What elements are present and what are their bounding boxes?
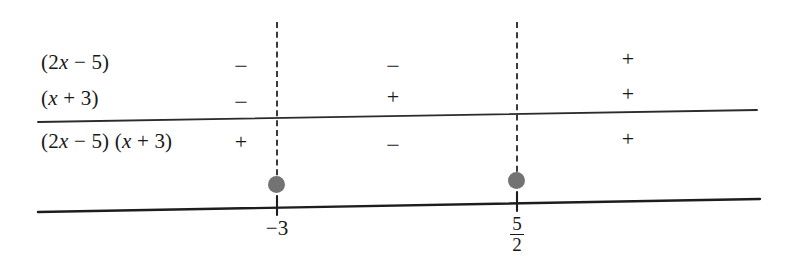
row-label-product: (2x − 5) (x + 3): [41, 131, 172, 152]
row-label-text-mid: − 5) (: [68, 129, 121, 153]
row-label-factor-1: (2x − 5): [41, 52, 109, 73]
number-line: [38, 199, 760, 212]
critical-point-dot-minus-3: [268, 176, 285, 193]
critical-point-dot-five-halves: [508, 172, 525, 189]
fraction-five-halves: 5 2: [510, 214, 524, 255]
sign-chart-figure: (2x − 5) − − + (x + 3) − + + (2x − 5) (x…: [0, 0, 794, 261]
row-label-factor-2: (x + 3): [41, 88, 99, 109]
sign-product-right: +: [615, 128, 641, 150]
axis-label-five-halves: 5 2: [496, 214, 538, 255]
fraction-denominator: 2: [510, 234, 524, 255]
sign-product-left: +: [228, 131, 254, 153]
sign-factor-2-right: +: [615, 83, 641, 105]
fraction-numerator: 5: [510, 214, 524, 234]
row-label-text-tail: + 3): [58, 86, 99, 110]
sign-factor-2-middle: +: [380, 86, 406, 108]
row-label-text: (2: [41, 129, 59, 153]
sign-product-middle: −: [380, 133, 406, 157]
sign-factor-1-right: +: [615, 48, 641, 70]
divider-line-five-halves: [516, 22, 518, 182]
axis-label-minus-3: −3: [256, 218, 298, 239]
row-label-variable: x: [48, 86, 58, 110]
row-label-variable: x: [59, 129, 69, 153]
divider-line-minus-3: [276, 22, 278, 185]
row-label-text-tail: + 3): [131, 129, 172, 153]
sign-factor-1-left: −: [228, 54, 254, 78]
sign-factor-2-left: −: [228, 90, 254, 114]
row-label-text: (2: [41, 50, 59, 74]
row-divider-rule: [38, 110, 757, 122]
row-label-variable: x: [59, 50, 69, 74]
sign-factor-1-middle: −: [380, 54, 406, 78]
row-label-text-tail: − 5): [68, 50, 109, 74]
